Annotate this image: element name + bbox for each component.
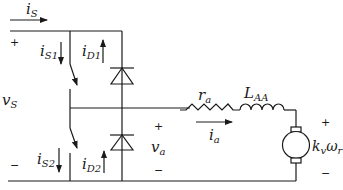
label-is1: iS1 bbox=[40, 44, 58, 61]
switch-s2-blade bbox=[70, 128, 77, 148]
label-is: iS bbox=[26, 2, 38, 19]
output-plus-sign: + bbox=[154, 121, 163, 132]
label-id1: iD1 bbox=[82, 44, 101, 61]
label-va: va bbox=[151, 140, 165, 157]
output-minus-sign: − bbox=[154, 165, 163, 176]
label-back-emf: kvωr bbox=[312, 139, 342, 156]
label-ra: ra bbox=[198, 88, 211, 105]
label-is2: iS2 bbox=[37, 152, 55, 169]
source-plus-sign: + bbox=[10, 37, 19, 48]
motor-minus-sign: − bbox=[321, 168, 330, 179]
chopper-circuit-diagram: iS + vS − iS1 iD1 iS2 iD2 + va − ra LAA … bbox=[0, 0, 343, 190]
motor-armature bbox=[283, 132, 310, 159]
switch-s1-blade bbox=[70, 64, 77, 85]
inductor-laa bbox=[240, 104, 284, 110]
label-vs: vS bbox=[2, 93, 17, 110]
label-laa: LAA bbox=[244, 86, 268, 103]
label-id2: iD2 bbox=[82, 157, 101, 174]
label-ia: ia bbox=[209, 128, 220, 145]
source-minus-sign: − bbox=[10, 160, 19, 171]
motor-plus-sign: + bbox=[321, 117, 330, 128]
motor-brush-bottom bbox=[291, 158, 301, 163]
